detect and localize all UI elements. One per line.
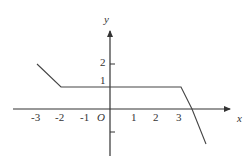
x-axis-label: x xyxy=(236,112,242,124)
function-graph: x y O -3 -2 -1 1 2 3 2 1 xyxy=(0,0,252,164)
function-curve xyxy=(37,64,206,144)
y-tick-label: 2 xyxy=(100,56,106,68)
origin-label: O xyxy=(97,111,105,123)
x-tick-label: -3 xyxy=(31,111,41,123)
y-axis-label: y xyxy=(103,13,109,25)
x-tick-label: 2 xyxy=(153,111,159,123)
x-tick-label: 1 xyxy=(131,111,137,123)
x-tick-label: -2 xyxy=(55,111,64,123)
x-tick-label: 3 xyxy=(176,111,182,123)
y-tick-label: 1 xyxy=(100,74,106,86)
x-tick-label: -1 xyxy=(80,111,89,123)
